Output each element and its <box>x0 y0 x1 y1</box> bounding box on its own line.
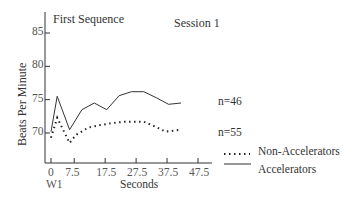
chart-subtitle: Session 1 <box>174 16 220 31</box>
legend-label-non-accelerators: Non-Accelerators <box>258 145 340 157</box>
y-tick-label: 70 <box>32 125 44 137</box>
legend-label-accelerators: Accelerators <box>258 163 316 175</box>
x-axis-label: Seconds <box>120 178 158 190</box>
y-tick-label: 75 <box>32 92 44 104</box>
x-tick-label: 37.5 <box>158 166 178 178</box>
x-tick-label: 27.5 <box>127 166 147 178</box>
y-tick-label: 85 <box>32 25 44 37</box>
chart-title: First Sequence <box>53 12 124 27</box>
non-accelerators-line <box>51 118 181 143</box>
annotation-non-accelerators-n: n=55 <box>218 126 242 138</box>
accelerators-line <box>51 92 181 132</box>
y-tick-label: 80 <box>32 58 44 70</box>
x-tick-sublabel: W1 <box>46 178 63 190</box>
x-tick-label: 7.5 <box>65 166 79 178</box>
y-axis-label: Beats Per Minute <box>15 63 30 146</box>
x-tick-label: 47.5 <box>189 166 209 178</box>
x-tick-label: 0 <box>48 166 54 178</box>
x-tick-label: 17.5 <box>96 166 116 178</box>
annotation-accelerators-n: n=46 <box>218 95 242 107</box>
